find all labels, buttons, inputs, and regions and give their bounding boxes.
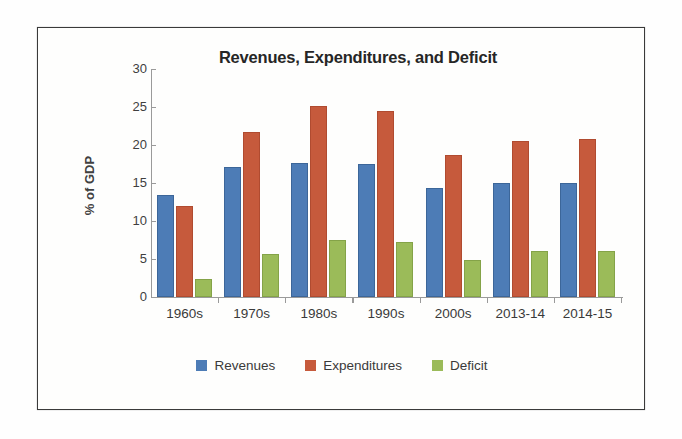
y-tick: 25 xyxy=(103,107,147,108)
x-axis-label: 2000s xyxy=(420,306,487,321)
chart-frame-border: Revenues, Expenditures, and Deficit % of… xyxy=(37,27,645,410)
bar-expenditures[interactable] xyxy=(243,132,260,297)
legend-label: Expenditures xyxy=(323,358,402,373)
x-axis-line xyxy=(151,297,623,298)
bar-expenditures[interactable] xyxy=(579,139,596,297)
x-axis-label: 1980s xyxy=(285,306,352,321)
bar-group xyxy=(218,69,285,297)
x-tick-mark xyxy=(285,297,286,303)
bar-revenues[interactable] xyxy=(493,183,510,297)
bar-expenditures[interactable] xyxy=(377,111,394,297)
x-axis-label: 1970s xyxy=(218,306,285,321)
y-tick-label: 10 xyxy=(107,214,147,227)
legend-item-expenditures[interactable]: Expenditures xyxy=(305,358,402,373)
bar-deficit[interactable] xyxy=(464,260,481,297)
legend-item-revenues[interactable]: Revenues xyxy=(196,358,275,373)
y-axis-label: % of GDP xyxy=(82,131,97,241)
bar-expenditures[interactable] xyxy=(310,106,327,297)
x-tick-mark xyxy=(352,297,353,303)
x-tick-mark xyxy=(420,297,421,303)
bar-expenditures[interactable] xyxy=(512,141,529,297)
y-tick: 30 xyxy=(103,69,147,70)
x-axis-label: 1990s xyxy=(352,306,419,321)
x-tick-mark xyxy=(218,297,219,303)
x-axis-label: 1960s xyxy=(151,306,218,321)
x-axis-label: 2013-14 xyxy=(487,306,554,321)
bar-revenues[interactable] xyxy=(157,195,174,297)
bar-deficit[interactable] xyxy=(598,251,615,297)
bar-group xyxy=(487,69,554,297)
y-tick-label: 0 xyxy=(107,290,147,303)
legend-label: Deficit xyxy=(450,358,488,373)
y-tick: 0 xyxy=(103,297,147,298)
legend-item-deficit[interactable]: Deficit xyxy=(432,358,488,373)
y-tick-label: 20 xyxy=(107,138,147,151)
legend-label: Revenues xyxy=(214,358,275,373)
bar-group xyxy=(420,69,487,297)
bar-deficit[interactable] xyxy=(262,254,279,297)
y-tick: 20 xyxy=(103,145,147,146)
bar-group xyxy=(151,69,218,297)
bar-deficit[interactable] xyxy=(396,242,413,297)
y-tick-label: 15 xyxy=(107,176,147,189)
bar-group xyxy=(285,69,352,297)
y-tick: 10 xyxy=(103,221,147,222)
legend-swatch-icon xyxy=(196,360,207,371)
bar-group xyxy=(554,69,621,297)
bar-chart: Revenues, Expenditures, and Deficit % of… xyxy=(38,28,646,411)
legend-swatch-icon xyxy=(305,360,316,371)
x-tick-mark xyxy=(487,297,488,303)
bar-revenues[interactable] xyxy=(224,167,241,297)
bar-deficit[interactable] xyxy=(329,240,346,297)
bar-deficit[interactable] xyxy=(195,279,212,297)
chart-title: Revenues, Expenditures, and Deficit xyxy=(148,48,568,67)
y-tick-label: 30 xyxy=(107,62,147,75)
page-canvas: Revenues, Expenditures, and Deficit % of… xyxy=(0,0,682,439)
bar-deficit[interactable] xyxy=(531,251,548,297)
x-tick-mark xyxy=(554,297,555,303)
y-tick: 15 xyxy=(103,183,147,184)
bar-revenues[interactable] xyxy=(291,163,308,297)
chart-legend: RevenuesExpendituresDeficit xyxy=(38,358,646,373)
legend-swatch-icon xyxy=(432,360,443,371)
bar-group xyxy=(352,69,419,297)
bar-revenues[interactable] xyxy=(560,183,577,297)
y-tick: 5 xyxy=(103,259,147,260)
x-axis-label: 2014-15 xyxy=(554,306,621,321)
bar-expenditures[interactable] xyxy=(176,206,193,297)
bar-revenues[interactable] xyxy=(358,164,375,297)
bar-revenues[interactable] xyxy=(426,188,443,297)
y-tick-label: 25 xyxy=(107,100,147,113)
y-tick-label: 5 xyxy=(107,252,147,265)
x-tick-mark xyxy=(621,297,622,303)
bar-expenditures[interactable] xyxy=(445,155,462,297)
